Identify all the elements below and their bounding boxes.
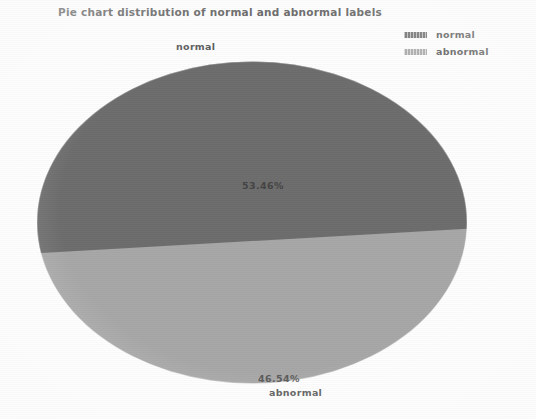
- pie-svg: [36, 60, 468, 385]
- legend-label-abnormal: abnormal: [436, 46, 489, 57]
- chart-title: Pie chart distribution of normal and abn…: [58, 6, 478, 18]
- legend-swatch-normal-icon: [404, 32, 427, 38]
- pie-chart-figure: Pie chart distribution of normal and abn…: [0, 0, 536, 419]
- wedge-label-normal: normal: [176, 41, 215, 52]
- pie-chart-plot-area: 53.46% 46.54%: [36, 60, 468, 385]
- wedge-label-abnormal: abnormal: [269, 387, 322, 398]
- legend-swatch-abnormal-icon: [404, 49, 427, 55]
- pie-wedge-normal[interactable]: [36, 60, 468, 254]
- legend-label-normal: normal: [436, 29, 475, 40]
- wedge-percent-normal: 53.46%: [242, 180, 284, 191]
- legend-item-abnormal[interactable]: abnormal: [404, 44, 528, 59]
- wedge-percent-abnormal: 46.54%: [258, 373, 300, 384]
- chart-legend: normal abnormal: [404, 27, 528, 61]
- legend-item-normal[interactable]: normal: [404, 27, 528, 42]
